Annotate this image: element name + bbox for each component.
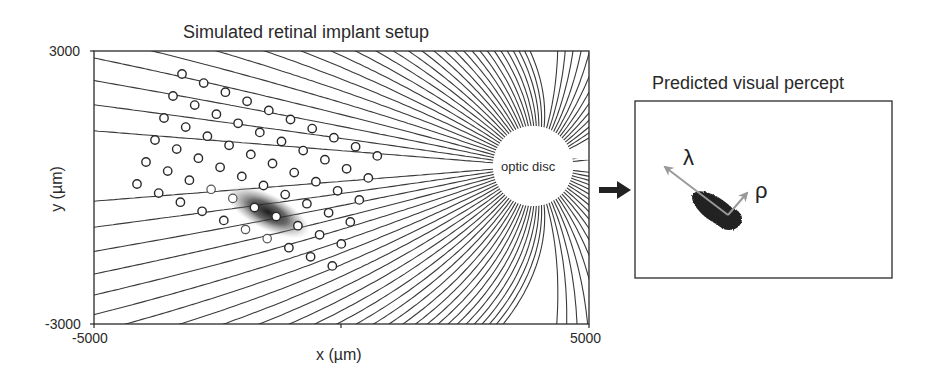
right-arrow-icon — [599, 181, 631, 199]
electrode-activated — [207, 185, 215, 193]
electrode — [324, 209, 332, 217]
electrode — [312, 178, 320, 186]
electrode — [220, 216, 228, 224]
electrode — [234, 119, 242, 127]
rho-label: ρ — [755, 178, 768, 204]
electrode — [155, 189, 163, 197]
electrode — [321, 156, 329, 164]
electrode — [259, 181, 267, 189]
electrode — [198, 207, 206, 215]
electrode — [294, 222, 302, 230]
electrode — [272, 212, 280, 220]
electrode — [303, 200, 311, 208]
electrode — [281, 190, 289, 198]
electrode — [285, 244, 293, 252]
electrode-array — [133, 70, 382, 270]
electrode — [333, 187, 341, 195]
electrode — [182, 123, 190, 131]
electrode — [247, 150, 255, 158]
electrode — [290, 168, 298, 176]
electrode — [256, 128, 264, 136]
lambda-label: λ — [683, 145, 694, 171]
electrode-activated — [241, 225, 249, 233]
electrode-activated — [263, 234, 271, 242]
optic-disc-label: optic disc — [501, 159, 555, 174]
electrode — [306, 253, 314, 261]
electrode — [299, 146, 307, 154]
electrode — [286, 115, 294, 123]
electrode — [250, 203, 258, 211]
electrode — [265, 106, 273, 114]
electrode — [194, 154, 202, 162]
electrode — [355, 196, 363, 204]
electrode — [178, 70, 186, 78]
electrode — [308, 124, 316, 132]
electrode — [151, 136, 159, 144]
electrode — [315, 231, 323, 239]
electrode — [268, 159, 276, 167]
electrode — [173, 145, 181, 153]
electrode — [346, 218, 354, 226]
electrode — [221, 88, 229, 96]
electrode — [364, 174, 372, 182]
electrode — [133, 180, 141, 188]
electrode — [351, 143, 359, 151]
electrode — [185, 176, 193, 184]
electrode — [164, 167, 172, 175]
electrode — [200, 79, 208, 87]
electrode — [169, 92, 177, 100]
electrode — [243, 97, 251, 105]
electrode — [212, 110, 220, 118]
electrode-activated — [229, 194, 237, 202]
electrode — [203, 132, 211, 140]
electrode — [225, 141, 233, 149]
electrode — [337, 240, 345, 248]
electrode — [328, 262, 336, 270]
electrode — [216, 163, 224, 171]
electrode — [191, 101, 199, 109]
electrode — [330, 134, 338, 142]
electrode — [373, 152, 381, 160]
electrode — [160, 114, 168, 122]
electrode — [142, 158, 150, 166]
electrode — [238, 172, 246, 180]
figure-canvas — [0, 0, 932, 379]
electrode — [277, 137, 285, 145]
electrode — [342, 165, 350, 173]
electrode — [176, 198, 184, 206]
